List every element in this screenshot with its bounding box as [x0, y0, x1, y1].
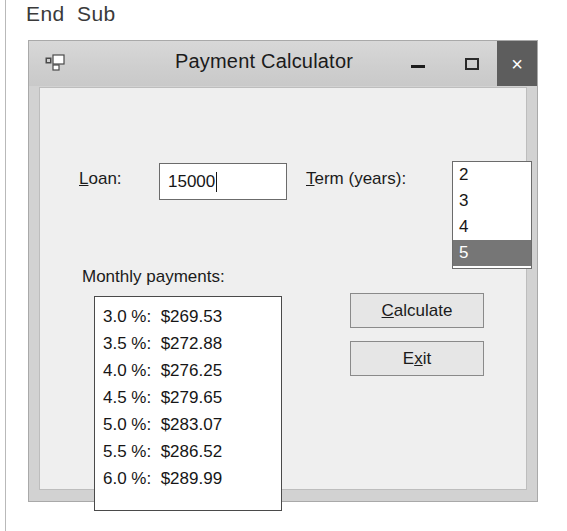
list-item[interactable]: 5.5 %: $286.52 — [95, 438, 281, 465]
close-icon: × — [511, 54, 523, 74]
list-item[interactable]: 4.5 %: $279.65 — [95, 384, 281, 411]
exit-button-accel: x — [414, 349, 423, 369]
term-listbox[interactable]: 2 3 4 5 — [452, 161, 532, 269]
close-button[interactable]: × — [497, 41, 537, 86]
window-titlebar[interactable]: Payment Calculator × — [29, 41, 537, 86]
loan-input[interactable]: 15000 — [159, 163, 287, 200]
list-item[interactable]: 3.5 %: $272.88 — [95, 330, 281, 357]
minimize-button[interactable] — [395, 41, 441, 86]
calculate-button-rest: alculate — [394, 301, 453, 321]
list-item[interactable]: 5.0 %: $283.07 — [95, 411, 281, 438]
payment-calculator-window: Payment Calculator × Loan: 15000 Term (y… — [28, 40, 538, 502]
list-item[interactable]: 4.0 %: $276.25 — [95, 357, 281, 384]
list-item[interactable]: 3 — [453, 188, 531, 214]
calculate-button-accel: C — [382, 301, 394, 321]
exit-button-rest: it — [423, 349, 432, 369]
page-margin-rule — [5, 0, 6, 531]
list-item[interactable]: 6.0 %: $289.99 — [95, 465, 281, 492]
term-label: Term (years): — [306, 169, 406, 189]
exit-button[interactable]: Exit — [350, 341, 484, 376]
exit-button-prefix: E — [403, 349, 414, 369]
window-title: Payment Calculator — [134, 50, 394, 73]
text-caret — [216, 172, 217, 192]
maximize-button[interactable] — [449, 41, 495, 86]
maximize-icon — [465, 58, 479, 70]
monthly-payments-label: Monthly payments: — [82, 267, 225, 287]
monthly-payments-listbox[interactable]: 3.0 %: $269.53 3.5 %: $272.88 4.0 %: $27… — [94, 296, 282, 511]
loan-input-value: 15000 — [160, 172, 215, 192]
term-label-accel: T — [306, 169, 315, 188]
list-item[interactable]: 3.0 %: $269.53 — [95, 303, 281, 330]
minimize-icon — [411, 65, 425, 68]
vb-form-icon — [45, 54, 65, 72]
list-item[interactable]: 4 — [453, 214, 531, 240]
list-item-selected[interactable]: 5 — [453, 240, 531, 266]
loan-label: Loan: — [79, 169, 122, 189]
code-line-end-sub: End Sub — [26, 2, 116, 26]
term-label-rest: erm (years): — [315, 169, 407, 188]
calculate-button[interactable]: Calculate — [350, 293, 484, 328]
list-item[interactable]: 2 — [453, 162, 531, 188]
loan-label-rest: oan: — [88, 169, 121, 188]
